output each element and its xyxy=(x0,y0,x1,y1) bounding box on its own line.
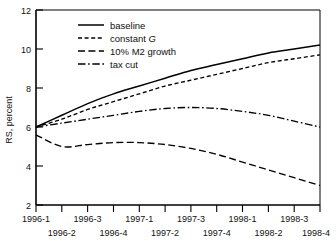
chart-svg: 12 10 8 6 4 2 RS, percent 1996-1 xyxy=(0,0,336,244)
legend-label-baseline: baseline xyxy=(110,20,145,31)
x-label-1998-3: 1998-3 xyxy=(280,214,308,224)
y-tick-label-12: 12 xyxy=(21,6,31,16)
x-label-1998-1: 1998-1 xyxy=(228,214,256,224)
y-axis-title: RS, percent xyxy=(4,96,14,144)
y-tick-labels: 12 10 8 6 4 2 xyxy=(21,6,31,211)
x-label-1996-4: 1996-4 xyxy=(99,228,127,238)
legend-label-m2-growth: 10% M2 growth xyxy=(110,46,176,57)
series-tax-cut xyxy=(36,108,320,128)
legend-label-constant-g: constant G xyxy=(110,33,156,44)
x-tick-labels-bottom: 1996-2 1996-4 1997-2 1997-4 1998-2 1998-… xyxy=(48,228,330,238)
x-label-1998-2: 1998-2 xyxy=(254,228,282,238)
legend-label-constant-g-prefix: constant xyxy=(110,33,149,44)
x-label-1997-1: 1997-1 xyxy=(125,214,153,224)
series-constant-g xyxy=(36,55,320,127)
series-m2-growth xyxy=(36,135,320,186)
x-label-1997-2: 1997-2 xyxy=(151,228,179,238)
x-label-1996-1: 1996-1 xyxy=(22,214,50,224)
legend-label-tax-cut: tax cut xyxy=(110,59,138,70)
x-label-1997-4: 1997-4 xyxy=(203,228,231,238)
x-label-1996-2: 1996-2 xyxy=(48,228,76,238)
y-tick-label-8: 8 xyxy=(26,84,31,94)
x-ticks xyxy=(36,205,320,212)
y-tick-label-2: 2 xyxy=(26,201,31,211)
x-label-1997-3: 1997-3 xyxy=(177,214,205,224)
x-label-1996-3: 1996-3 xyxy=(74,214,102,224)
legend-label-constant-g-symbol: G xyxy=(149,33,156,44)
chart-figure: 12 10 8 6 4 2 RS, percent 1996-1 xyxy=(0,0,336,244)
x-tick-labels-top: 1996-1 1996-3 1997-1 1997-3 1998-1 1998-… xyxy=(22,214,308,224)
x-label-1998-4: 1998-4 xyxy=(302,228,330,238)
y-ticks xyxy=(36,10,43,205)
y-tick-label-6: 6 xyxy=(26,123,31,133)
y-tick-label-4: 4 xyxy=(26,162,31,172)
y-tick-label-10: 10 xyxy=(21,45,31,55)
series-baseline xyxy=(36,45,320,127)
legend: baseline constant G 10% M2 growth tax cu… xyxy=(78,20,176,70)
series-group xyxy=(36,45,320,185)
